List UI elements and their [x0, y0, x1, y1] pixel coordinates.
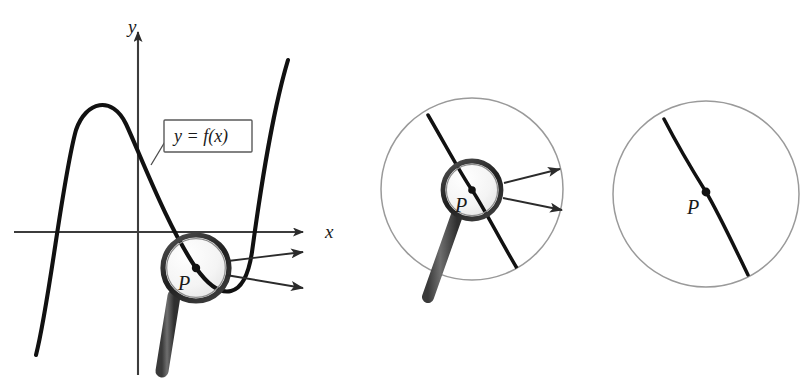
figure-root: x y P — [0, 0, 809, 389]
magnifier-handle-2 — [428, 215, 457, 297]
point-p-marker-3 — [702, 188, 711, 197]
panel-graph: x y P — [14, 16, 334, 375]
function-curve — [36, 60, 288, 355]
point-p-marker-2 — [468, 186, 476, 194]
y-axis-label: y — [126, 16, 137, 37]
panel-zoom-2: P — [613, 101, 799, 287]
magnifier-2[interactable]: P — [428, 115, 518, 297]
point-p-label: P — [177, 272, 190, 294]
function-label: y = f(x) — [172, 126, 228, 147]
point-p-label-3: P — [686, 196, 699, 218]
point-p-label-2: P — [454, 194, 467, 216]
panel-zoom-1: P — [381, 98, 563, 297]
zoom-arrow-3 — [504, 169, 560, 183]
function-callout: y = f(x) — [151, 120, 252, 165]
x-axis-label: x — [324, 221, 334, 242]
magnifier-handle — [162, 296, 174, 371]
point-p-marker — [192, 264, 200, 272]
magnified-curve-2 — [664, 119, 748, 275]
curve-in-view-2 — [664, 119, 748, 275]
zoom-arrow-1 — [228, 252, 303, 261]
zoom-arrow-4 — [503, 198, 562, 210]
figure-canvas: x y P — [0, 0, 809, 389]
